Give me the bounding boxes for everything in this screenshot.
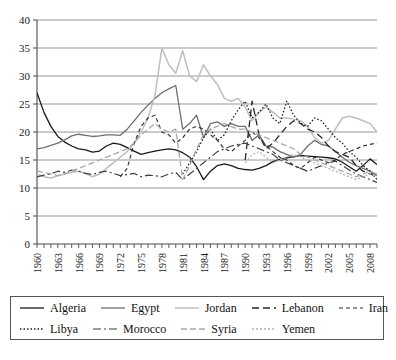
legend-label: Algeria	[50, 302, 86, 314]
legend-item-syria[interactable]: Syria	[180, 323, 236, 335]
x-axis-tick-label: 1981	[178, 253, 189, 273]
legend-swatch-libya	[19, 324, 45, 334]
y-axis-tick-label: 35	[19, 42, 31, 54]
legend-item-iran[interactable]: Iran	[338, 302, 388, 314]
x-axis-tick-label: 1975	[136, 253, 147, 273]
legend-swatch-jordan	[174, 303, 200, 313]
legend-swatch-syria	[180, 324, 206, 334]
legend-label: Iran	[369, 302, 388, 314]
x-axis-tick-label: 1990	[240, 253, 251, 273]
chart-container: 0510152025303540196019631966196919721975…	[0, 0, 396, 360]
legend-label: Egypt	[131, 302, 160, 314]
x-axis-tick-label: 1960	[32, 253, 43, 273]
legend-label: Lebanon	[282, 302, 324, 314]
legend-swatch-yemen	[251, 324, 277, 334]
legend-label: Jordan	[205, 302, 237, 314]
series-line-morocco	[37, 143, 377, 182]
chart-legend: AlgeriaEgyptJordanLebanonIran LibyaMoroc…	[10, 296, 384, 340]
legend-item-libya[interactable]: Libya	[19, 323, 78, 335]
series-line-libya	[183, 101, 377, 179]
y-axis-tick-label: 10	[19, 182, 31, 194]
x-axis: 1960196319661969197219751978198119841987…	[32, 244, 377, 273]
legend-swatch-iran	[338, 303, 364, 313]
legend-item-morocco[interactable]: Morocco	[92, 323, 166, 335]
legend-row: AlgeriaEgyptJordanLebanonIran	[11, 297, 383, 318]
y-axis-tick-label: 0	[25, 238, 31, 250]
legend-item-yemen[interactable]: Yemen	[251, 323, 315, 335]
legend-swatch-morocco	[92, 324, 118, 334]
x-axis-tick-label: 1987	[219, 253, 230, 273]
legend-swatch-algeria	[19, 303, 45, 313]
legend-swatch-egypt	[100, 303, 126, 313]
gridlines: 0510152025303540	[19, 14, 377, 250]
x-axis-tick-label: 2005	[344, 253, 355, 273]
legend-row: LibyaMoroccoSyriaYemen	[11, 318, 383, 339]
y-axis-tick-label: 5	[25, 210, 31, 222]
y-axis-tick-label: 30	[19, 70, 31, 82]
legend-label: Morocco	[123, 323, 166, 335]
legend-label: Yemen	[282, 323, 315, 335]
legend-item-lebanon[interactable]: Lebanon	[251, 302, 324, 314]
line-chart-plot: 0510152025303540196019631966196919721975…	[0, 0, 396, 295]
x-axis-tick-label: 1996	[282, 253, 293, 273]
x-axis-tick-label: 1972	[115, 253, 126, 273]
y-axis-tick-label: 25	[19, 98, 31, 110]
series-line-jordan	[37, 48, 377, 178]
legend-swatch-lebanon	[251, 303, 277, 313]
x-axis-tick-label: 2002	[323, 253, 334, 273]
x-axis-tick-label: 1993	[261, 253, 272, 273]
legend-label: Libya	[50, 323, 78, 335]
y-axis-tick-label: 40	[19, 14, 31, 26]
legend-item-egypt[interactable]: Egypt	[100, 302, 160, 314]
x-axis-tick-label: 1984	[199, 253, 210, 273]
x-axis-tick-label: 1966	[74, 253, 85, 273]
y-axis-tick-label: 15	[19, 154, 31, 166]
y-axis-tick-label: 20	[19, 126, 31, 138]
series-group	[37, 48, 377, 182]
x-axis-tick-label: 1978	[157, 253, 168, 273]
x-axis-tick-label: 1999	[303, 253, 314, 273]
x-axis-tick-label: 1963	[53, 253, 64, 273]
legend-item-algeria[interactable]: Algeria	[19, 302, 86, 314]
x-axis-tick-label: 1969	[94, 253, 105, 273]
legend-label: Syria	[211, 323, 236, 335]
x-axis-tick-label: 2008	[365, 253, 376, 273]
legend-item-jordan[interactable]: Jordan	[174, 302, 237, 314]
